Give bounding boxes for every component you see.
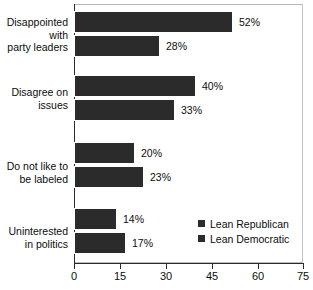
bar-value-republican-labeled: 20% [141,147,162,159]
bar-value-democratic-uninterested: 17% [132,237,153,249]
legend-item-lean-democratic: Lean Democratic [198,231,289,246]
x-tick-label-60: 60 [252,270,264,282]
bar-value-republican-uninterested: 14% [123,213,144,225]
bar-republican-labeled [74,142,135,164]
legend-swatch-icon-lean-republican [198,220,205,227]
category-label-disappointed-with-party-leaders: Disappointed with party leaders [0,16,68,54]
x-tick-label-0: 0 [71,270,77,282]
x-tick-label-45: 45 [206,270,218,282]
bar-value-republican-disappointed: 52% [239,16,260,28]
bar-value-democratic-disappointed: 28% [166,40,187,52]
legend-label-lean-democratic: Lean Democratic [210,233,289,245]
legend-swatch-icon-lean-democratic [198,235,205,242]
bar-democratic-disagree [74,99,175,121]
x-tick-mark-0 [74,264,75,269]
category-label-disagree-on-issues: Disagree on issues [0,86,68,111]
x-tick-label-75: 75 [297,270,309,282]
bar-democratic-uninterested [74,232,126,254]
legend-item-lean-republican: Lean Republican [198,216,289,231]
chart-legend: Lean Republican Lean Democratic [198,216,289,246]
x-tick-label-15: 15 [114,270,126,282]
category-label-uninterested-in-politics: Uninterested in politics [0,225,68,250]
bar-republican-uninterested [74,208,117,230]
bar-chart: 0 15 30 45 60 75 Disappointed with party… [0,0,313,290]
bar-democratic-disappointed [74,35,160,57]
bar-value-democratic-disagree: 33% [181,104,202,116]
bar-republican-disappointed [74,11,233,33]
bar-democratic-labeled [74,166,144,188]
bar-value-republican-disagree: 40% [202,80,223,92]
x-axis-line [74,263,304,264]
x-tick-mark-15 [120,264,121,269]
x-tick-mark-60 [258,264,259,269]
x-tick-label-30: 30 [160,270,172,282]
bar-republican-disagree [74,75,196,97]
bar-value-democratic-labeled: 23% [150,171,171,183]
x-tick-mark-75 [303,264,304,269]
legend-label-lean-republican: Lean Republican [210,218,289,230]
x-tick-mark-45 [212,264,213,269]
x-tick-mark-30 [166,264,167,269]
category-label-do-not-like-to-be-labeled: Do not like to be labeled [0,160,68,185]
